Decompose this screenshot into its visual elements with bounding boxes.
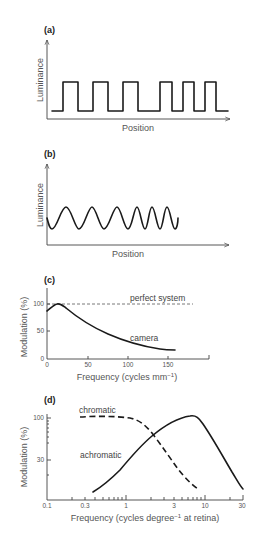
panel-c-y-title: Modulation (%) <box>19 297 29 358</box>
perfect-system-annotation: perfect system <box>130 293 185 303</box>
panel-d-label: (d) <box>44 395 56 405</box>
camera-curve <box>47 304 175 350</box>
panel-a-x-title: Position <box>122 123 154 133</box>
panel-d-xtick-label: 10 <box>201 502 209 509</box>
panel-d-xtick-label: 1 <box>124 502 128 509</box>
panel-d-xtick-label: 3 <box>172 502 176 509</box>
panel-a: (a) Luminance Position <box>35 25 230 133</box>
panel-d-yticks <box>47 418 51 475</box>
achromatic-annotation: achromatic <box>80 450 122 460</box>
panel-b-sine-wave <box>47 207 178 229</box>
panel-a-y-title: Luminance <box>35 58 45 102</box>
figure-canvas: (a) Luminance Position (b) Luminance Pos… <box>0 0 264 548</box>
panel-c-ytick-label: 0 <box>40 355 44 362</box>
panel-d-y-title: Modulation (%) <box>19 427 29 488</box>
panel-c-xtick-label: 150 <box>163 361 174 368</box>
panel-d-xtick-label: 30 <box>238 502 246 509</box>
panel-d-ytick-label: 30 <box>37 456 45 463</box>
panel-d-ytick-label: 100 <box>33 414 44 421</box>
panel-c-xtick-label: 100 <box>123 361 134 368</box>
panel-d-xticks <box>72 495 243 500</box>
panel-b-y-title: Luminance <box>35 183 45 227</box>
panel-c: (c) 100 50 0 0 50 100 150 Modulation (%)… <box>19 275 209 382</box>
panel-d: (d) 100 30 <box>19 395 246 523</box>
panel-d-xtick-label: 0.1 <box>42 502 51 509</box>
panel-c-ytick-label: 100 <box>33 300 44 307</box>
panel-c-x-title: Frequency (cycles mm−1) <box>77 372 177 382</box>
panel-c-xtick-label: 50 <box>84 361 92 368</box>
camera-annotation: camera <box>130 333 159 343</box>
panel-d-x-title: Frequency (cycles degree−1 at retina) <box>71 513 219 523</box>
panel-c-xtick-label: 0 <box>45 361 49 368</box>
panel-b: (b) Luminance Position <box>35 149 229 259</box>
panel-a-square-wave <box>52 82 228 111</box>
panel-a-label: (a) <box>44 25 55 35</box>
chromatic-annotation: chromatic <box>79 405 117 415</box>
panel-c-ytick-label: 50 <box>37 327 45 334</box>
panel-b-x-title: Position <box>112 249 144 259</box>
panel-c-label: (c) <box>44 275 55 285</box>
panel-d-xtick-label: 0.3 <box>80 502 89 509</box>
panel-b-label: (b) <box>44 149 56 159</box>
